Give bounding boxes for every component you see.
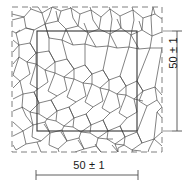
specimen-field: [12, 7, 162, 152]
specimen-diagram: [0, 0, 194, 182]
specimen-figure: 50 ± 1 50 ± 1: [0, 0, 194, 182]
height-dimension-label: 50 ± 1: [167, 25, 179, 81]
width-dimension: [36, 170, 138, 180]
width-dimension-label: 50 ± 1: [61, 159, 117, 171]
